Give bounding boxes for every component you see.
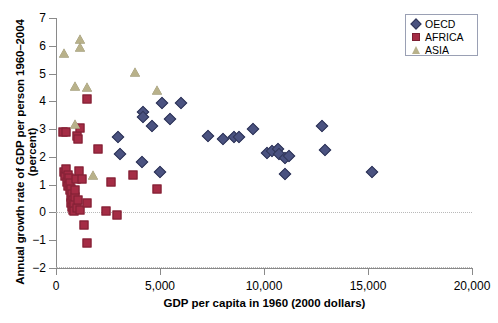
x-tick [472,268,473,275]
data-point-africa [107,177,116,186]
data-point-oecd [136,156,149,169]
data-point-asia [70,119,80,128]
data-point-africa [73,134,82,143]
legend-item-oecd: OECD [410,18,477,30]
legend: OECD AFRICA ASIA [405,14,478,56]
data-point-oecd [146,120,159,133]
y-tick [49,129,56,130]
data-point-africa [80,220,89,229]
legend-label-africa: AFRICA [425,32,464,43]
data-point-oecd [112,131,125,144]
x-tick-label: 10,000 [246,279,283,293]
data-point-africa [128,170,137,179]
y-tick [49,240,56,241]
scatter-plot-figure: −2−101234567 05,00010,00015,00020,000 An… [0,0,498,323]
oecd-diamond-icon [410,20,422,28]
africa-square-icon [410,33,422,41]
y-tick-label: 5 [39,67,46,81]
data-point-africa [113,211,122,220]
data-point-oecd [201,130,214,143]
data-point-africa [93,144,102,153]
data-point-asia [59,48,69,57]
data-point-oecd [154,166,167,179]
x-tick [368,268,369,275]
data-point-oecd [366,166,379,179]
y-tick [49,212,56,213]
y-tick-label: −1 [32,233,46,247]
legend-label-asia: ASIA [425,45,449,56]
data-point-africa [61,127,70,136]
data-point-oecd [246,123,259,136]
data-point-africa [152,184,161,193]
data-point-africa [83,94,92,103]
y-tick [49,157,56,158]
data-point-africa [83,198,92,207]
data-point-oecd [174,96,187,109]
data-point-oecd [319,144,332,157]
y-tick-label: 6 [39,39,46,53]
x-tick-label: 20,000 [454,279,491,293]
y-tick [49,185,56,186]
y-tick-label: 2 [39,150,46,164]
data-point-asia [130,68,140,77]
x-axis-title: GDP per capita in 1960 (2000 dollars) [56,297,473,309]
data-point-oecd [164,113,177,126]
legend-label-oecd: OECD [425,19,455,30]
data-point-oecd [217,132,230,145]
data-point-africa [78,175,87,184]
data-point-asia [82,83,92,92]
y-tick-label: 0 [39,205,46,219]
y-tick-label: 7 [39,11,46,25]
data-point-africa [101,207,110,216]
data-point-asia [152,86,162,95]
data-point-oecd [156,96,169,109]
x-tick-label: 15,000 [350,279,387,293]
data-point-africa [83,239,92,248]
asia-triangle-icon [410,46,422,54]
data-point-oecd [316,120,329,133]
data-point-oecd [278,167,291,180]
y-tick [49,101,56,102]
legend-item-asia: ASIA [410,44,477,56]
x-tick [264,268,265,275]
y-axis-title: Annual growth rate of GDP per person 196… [14,7,28,297]
legend-item-africa: AFRICA [410,31,477,43]
y-tick-label: 3 [39,122,46,136]
y-tick [49,268,56,269]
y-tick [49,18,56,19]
data-point-africa [71,186,80,195]
data-point-oecd [113,148,126,161]
data-point-africa [73,195,82,204]
data-point-asia [88,170,98,179]
x-tick [160,268,161,275]
y-tick [49,46,56,47]
data-point-asia [75,43,85,52]
data-point-asia [70,82,80,91]
y-tick-label: −2 [32,261,46,275]
y-tick-label: 4 [39,94,46,108]
x-tick [56,268,57,275]
x-tick-label: 5,000 [145,279,175,293]
y-tick-label: 1 [39,178,46,192]
y-tick [49,74,56,75]
x-tick-label: 0 [53,279,60,293]
